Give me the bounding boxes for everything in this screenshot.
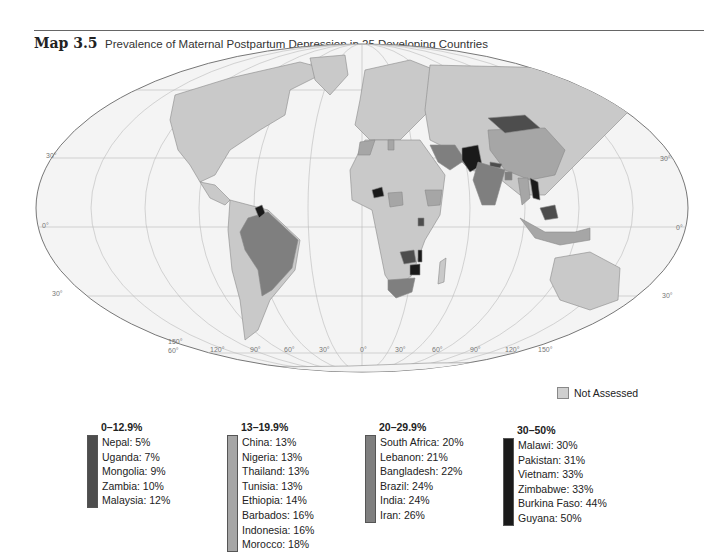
legend-swatch — [227, 435, 238, 552]
svg-text:60°: 60° — [284, 346, 295, 353]
svg-text:0°: 0° — [360, 346, 367, 353]
legend-entry: Vietnam: 33% — [518, 467, 607, 482]
svg-text:120°: 120° — [505, 346, 520, 353]
legend-swatch — [503, 438, 514, 526]
zimbabwe — [410, 264, 420, 275]
svg-text:30°: 30° — [395, 346, 406, 353]
legend-band-range: 20–29.9% — [379, 421, 463, 434]
legend-entry: Nepal: 5% — [102, 435, 170, 450]
legend-swatch — [365, 435, 376, 523]
legend-entry: Barbados: 16% — [242, 508, 314, 523]
legend-entry: Ethiopia: 14% — [242, 493, 314, 508]
legend-band-range: 13–19.9% — [241, 421, 314, 434]
legend-entry: Zambia: 10% — [102, 479, 170, 494]
legend-entry: Pakistan: 31% — [518, 453, 607, 468]
legend-entry: India: 24% — [380, 493, 463, 508]
legend-swatch — [87, 435, 98, 508]
svg-text:30°: 30° — [46, 152, 57, 159]
legend-band-range: 0–12.9% — [101, 421, 170, 434]
legend-entry: Brazil: 24% — [380, 479, 463, 494]
legend-entry: Tunisia: 13% — [242, 479, 314, 494]
legend-entry: Zimbabwe: 33% — [518, 482, 607, 497]
nigeria — [388, 192, 403, 207]
legend-entry: Morocco: 18% — [242, 537, 314, 552]
legend-entry: Malawi: 30% — [518, 438, 607, 453]
malawi — [418, 250, 422, 262]
svg-text:150°: 150° — [538, 346, 553, 353]
legend-not-assessed: Not Assessed — [557, 387, 638, 399]
legend-entry: Bangladesh: 22% — [380, 464, 463, 479]
svg-text:30°: 30° — [319, 346, 330, 353]
legend-entry: Guyana: 50% — [518, 511, 607, 526]
legend-band-13-19-9: 13–19.9% China: 13% Nigeria: 13% Thailan… — [227, 421, 314, 552]
svg-text:60°: 60° — [168, 347, 179, 354]
legend-entry: Nigeria: 13% — [242, 450, 314, 465]
svg-text:30°: 30° — [662, 292, 673, 299]
legend-entry: Mongolia: 9% — [102, 464, 170, 479]
new-zealand — [625, 305, 640, 328]
svg-text:150°: 150° — [168, 338, 183, 345]
world-map: 30° 0° 30° 30° 0° 30° 150° 60° 120° 90° … — [0, 0, 718, 380]
svg-text:90°: 90° — [250, 346, 261, 353]
legend-entry: Indonesia: 16% — [242, 523, 314, 538]
legend-entry: China: 13% — [242, 435, 314, 450]
svg-text:30°: 30° — [52, 290, 63, 297]
svg-text:90°: 90° — [470, 346, 481, 353]
bangladesh — [505, 172, 512, 180]
legend-entry: Uganda: 7% — [102, 450, 170, 465]
legend-band-0-12-9: 0–12.9% Nepal: 5% Uganda: 7% Mongolia: 9… — [87, 421, 170, 508]
legend-band-range: 30–50% — [517, 424, 607, 437]
tunisia — [388, 140, 394, 150]
svg-text:0°: 0° — [42, 222, 49, 229]
svg-text:0°: 0° — [676, 224, 683, 231]
legend-entry: Lebanon: 21% — [380, 450, 463, 465]
legend-entry: Burkina Faso: 44% — [518, 496, 607, 511]
legend-band-20-29-9: 20–29.9% South Africa: 20% Lebanon: 21% … — [365, 421, 463, 523]
svg-text:30°: 30° — [660, 155, 671, 162]
legend-entry: Iran: 26% — [380, 508, 463, 523]
svg-text:120°: 120° — [210, 346, 225, 353]
not-assessed-label: Not Assessed — [574, 387, 638, 399]
legend-entry: Malaysia: 12% — [102, 493, 170, 508]
legend-band-30-50: 30–50% Malawi: 30% Pakistan: 31% Vietnam… — [503, 424, 607, 526]
legend-entry: Thailand: 13% — [242, 464, 314, 479]
ethiopia — [425, 190, 442, 206]
legend-entry: South Africa: 20% — [380, 435, 463, 450]
svg-text:60°: 60° — [432, 346, 443, 353]
uganda — [418, 218, 424, 226]
not-assessed-swatch — [557, 387, 569, 399]
